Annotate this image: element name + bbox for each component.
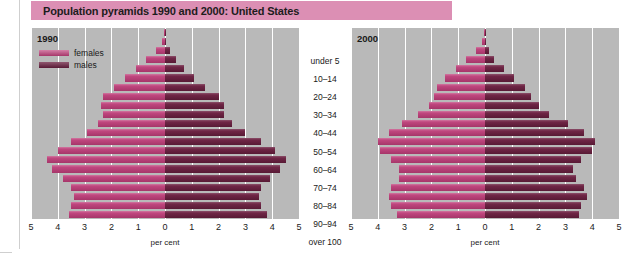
bar-males bbox=[165, 56, 176, 63]
bar-row bbox=[31, 38, 299, 45]
bar-row bbox=[351, 202, 619, 209]
bar-males bbox=[165, 193, 259, 200]
bar-row bbox=[351, 74, 619, 81]
bar-row bbox=[31, 111, 299, 118]
bar-females bbox=[466, 56, 485, 63]
bar-row bbox=[31, 211, 299, 218]
bar-females bbox=[389, 129, 485, 136]
bar-row bbox=[351, 47, 619, 54]
bar-females bbox=[103, 111, 165, 118]
bar-males bbox=[485, 129, 584, 136]
age-group-label: 60–64 bbox=[299, 165, 351, 175]
x-axis-tick-label: 5 bbox=[28, 222, 33, 232]
bar-females bbox=[71, 138, 165, 145]
charts-container: 1990 females males per cent 54321012345 … bbox=[0, 28, 634, 264]
bar-row bbox=[31, 147, 299, 154]
bar-row bbox=[31, 202, 299, 209]
bar-row bbox=[351, 165, 619, 172]
bar-row bbox=[31, 165, 299, 172]
bar-males bbox=[485, 29, 486, 36]
x-axis-tick-label: 0 bbox=[482, 222, 487, 232]
bar-females bbox=[74, 193, 165, 200]
bar-males bbox=[485, 93, 531, 100]
bar-females bbox=[445, 74, 485, 81]
bar-males bbox=[165, 202, 261, 209]
bar-females bbox=[58, 147, 165, 154]
x-axis-tick-label: 4 bbox=[270, 222, 275, 232]
plot-area-1990: 1990 females males bbox=[31, 28, 299, 219]
legend-swatch-males-icon bbox=[39, 62, 69, 68]
plot-area-2000: 2000 bbox=[351, 28, 619, 219]
bar-males bbox=[165, 147, 275, 154]
bar-males bbox=[165, 65, 184, 72]
age-group-label: 30–34 bbox=[299, 110, 351, 120]
bar-females bbox=[103, 93, 165, 100]
bar-row bbox=[351, 102, 619, 109]
bar-males bbox=[165, 138, 261, 145]
x-axis-tick-label: 4 bbox=[590, 222, 595, 232]
bar-females bbox=[391, 202, 485, 209]
x-axis-tick-label: 3 bbox=[402, 222, 407, 232]
x-axis-tick-label: 4 bbox=[375, 222, 380, 232]
bar-males bbox=[485, 202, 581, 209]
bar-row bbox=[31, 102, 299, 109]
bar-females bbox=[391, 184, 485, 191]
bar-females bbox=[402, 120, 485, 127]
x-axis-tick-label: 3 bbox=[82, 222, 87, 232]
bar-males bbox=[485, 38, 486, 45]
bar-row bbox=[351, 129, 619, 136]
bar-females bbox=[434, 93, 485, 100]
bar-males bbox=[485, 74, 514, 81]
bar-females bbox=[146, 56, 165, 63]
bar-males bbox=[165, 38, 166, 45]
bar-row bbox=[31, 156, 299, 163]
bar-row bbox=[351, 84, 619, 91]
bar-males bbox=[165, 184, 261, 191]
bar-males bbox=[485, 138, 595, 145]
bar-males bbox=[485, 156, 581, 163]
bar-males bbox=[485, 193, 587, 200]
x-axis-tick-label: 0 bbox=[162, 222, 167, 232]
bar-row bbox=[31, 193, 299, 200]
bar-row bbox=[31, 175, 299, 182]
bar-males bbox=[485, 184, 584, 191]
bar-females bbox=[476, 47, 485, 54]
age-axis-labels: over 10090–9480–8470–7460–6450–5440–4430… bbox=[299, 56, 351, 247]
bar-males bbox=[165, 111, 224, 118]
bar-row bbox=[351, 93, 619, 100]
x-axis-tick-label: 5 bbox=[616, 222, 621, 232]
bar-row bbox=[31, 29, 299, 36]
legend-swatch-females-icon bbox=[39, 50, 69, 56]
bar-females bbox=[125, 74, 165, 81]
chart-title: Population pyramids 1990 and 2000: Unite… bbox=[43, 5, 299, 17]
bar-females bbox=[52, 165, 165, 172]
bar-males bbox=[485, 175, 576, 182]
bar-males bbox=[485, 111, 549, 118]
bar-males bbox=[165, 102, 224, 109]
bar-males bbox=[165, 175, 270, 182]
panel-year-label-1990: 1990 bbox=[37, 33, 58, 44]
x-axis-1990: per cent 54321012345 bbox=[31, 219, 299, 264]
bar-row bbox=[351, 211, 619, 218]
bar-males bbox=[485, 147, 592, 154]
bar-females bbox=[87, 129, 165, 136]
x-axis-tick-label: 2 bbox=[109, 222, 114, 232]
bar-row bbox=[31, 120, 299, 127]
bar-females bbox=[378, 138, 485, 145]
bar-row bbox=[31, 138, 299, 145]
panel-year-label-2000: 2000 bbox=[357, 33, 378, 44]
bar-females bbox=[156, 47, 165, 54]
x-axis-2000: per cent 54321012345 bbox=[351, 219, 619, 264]
bar-row bbox=[351, 111, 619, 118]
bar-males bbox=[165, 156, 286, 163]
age-group-label: 80–84 bbox=[299, 201, 351, 211]
bar-females bbox=[98, 120, 165, 127]
bar-males bbox=[485, 165, 573, 172]
x-axis-tick-label: 5 bbox=[348, 222, 353, 232]
bar-females bbox=[391, 156, 485, 163]
bar-row bbox=[31, 93, 299, 100]
bar-males bbox=[165, 211, 267, 218]
bar-males bbox=[485, 84, 525, 91]
figure-root: Population pyramids 1990 and 2000: Unite… bbox=[0, 0, 634, 264]
legend-item-males: males bbox=[39, 60, 104, 70]
